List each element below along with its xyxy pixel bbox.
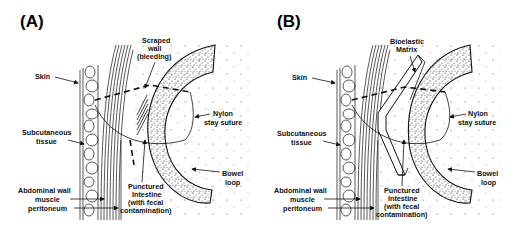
panel-a: (A): [18, 12, 250, 220]
panel-title: (B): [277, 12, 301, 31]
diagram: (A): [0, 0, 517, 233]
label-bowel: Bowel: [222, 169, 243, 178]
label-peritoneum: peritoneum: [28, 204, 67, 213]
label-skin: Skin: [292, 73, 307, 82]
label-subcutaneous: Subcutaneous: [277, 129, 327, 138]
label-stay-suture: stay suture: [458, 118, 496, 127]
subcutaneous-cells: [84, 65, 98, 220]
label-nylon: Nylon: [213, 109, 233, 118]
label-subcutaneous-2: tissue: [291, 138, 312, 147]
subcutaneous-arrow: [323, 141, 340, 145]
label-nylon: Nylon: [468, 109, 488, 118]
subcutaneous-cells: [341, 65, 355, 220]
subcutaneous-arrow: [68, 140, 84, 144]
label-muscle: muscle: [35, 195, 60, 204]
label-subcutaneous-2: tissue: [36, 137, 57, 146]
label-muscle: muscle: [290, 195, 315, 204]
label-abdominal-wall: Abdominal wall: [18, 186, 71, 195]
label-stay-suture: stay suture: [204, 118, 242, 127]
muscle-fibers: [101, 45, 133, 220]
label-bleeding: (bleeding): [137, 52, 172, 61]
skin-arrow: [55, 77, 78, 83]
panel-b: (B): [274, 12, 500, 220]
label-skin: Skin: [35, 72, 50, 81]
label-matrix: Matrix: [396, 45, 417, 54]
label-loop: loop: [225, 178, 241, 187]
panel-title: (A): [20, 12, 44, 31]
label-abdominal-wall: Abdominal wall: [274, 186, 327, 195]
label-contamination: contamination): [376, 210, 428, 219]
label-loop: loop: [481, 178, 497, 187]
label-bowel: Bowel: [477, 169, 498, 178]
label-peritoneum: peritoneum: [283, 204, 322, 213]
skin-arrow: [312, 78, 335, 83]
label-subcutaneous: Subcutaneous: [22, 128, 72, 137]
label-contamination: contamination): [120, 206, 172, 215]
